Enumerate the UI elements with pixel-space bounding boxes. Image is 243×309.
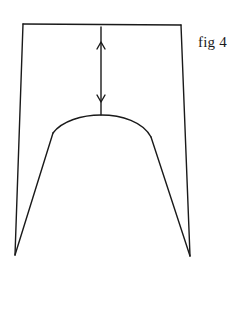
frame-right-edge [181, 25, 190, 256]
left-slant-leg [15, 133, 53, 255]
arch-curve [53, 115, 151, 137]
frame-top-edge [23, 24, 181, 25]
right-slant-leg [151, 137, 190, 256]
figure-label: fig 4 [198, 34, 227, 51]
frame-left-edge [15, 24, 23, 255]
